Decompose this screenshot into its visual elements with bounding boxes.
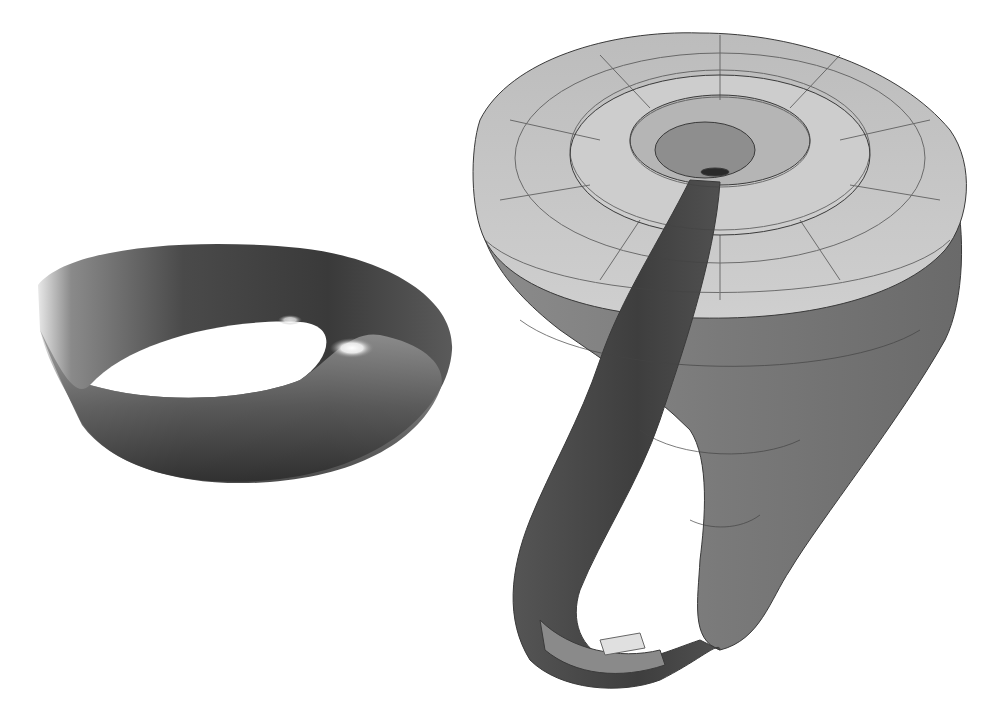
figure-canvas: [0, 0, 995, 715]
klein-bottle: [473, 33, 966, 688]
mobius-strip: [38, 244, 452, 483]
